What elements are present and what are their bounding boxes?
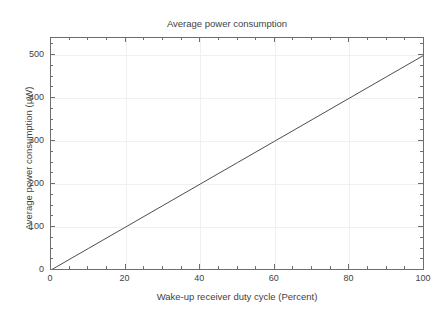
y-minor-tick: [50, 162, 53, 163]
y-minor-tick: [50, 151, 53, 152]
y-major-tick-right: [418, 226, 423, 227]
y-major-tick-right: [418, 54, 423, 55]
y-tick-label: 0: [0, 264, 44, 274]
x-tick-label: 40: [194, 273, 204, 283]
y-minor-tick: [50, 76, 53, 77]
y-minor-tick: [50, 237, 53, 238]
y-minor-tick-right: [420, 76, 423, 77]
x-minor-tick-top: [162, 37, 163, 40]
y-major-tick: [50, 54, 55, 55]
y-major-tick: [50, 269, 55, 270]
y-major-tick-right: [418, 97, 423, 98]
y-minor-tick: [50, 172, 53, 173]
x-tick-label: 0: [47, 273, 52, 283]
x-major-tick-top: [423, 37, 424, 42]
x-minor-tick: [106, 266, 107, 269]
y-minor-tick: [50, 129, 53, 130]
x-minor-tick: [311, 266, 312, 269]
y-minor-tick-right: [420, 194, 423, 195]
y-minor-tick-right: [420, 129, 423, 130]
y-major-tick: [50, 140, 55, 141]
x-minor-tick-top: [106, 37, 107, 40]
x-minor-tick: [367, 266, 368, 269]
x-minor-tick-top: [311, 37, 312, 40]
x-minor-tick-top: [87, 37, 88, 40]
y-minor-tick-right: [420, 237, 423, 238]
y-axis-label: Average power consumption (µW): [23, 42, 34, 275]
x-tick-label: 60: [269, 273, 279, 283]
x-axis-label: Wake-up receiver duty cycle (Percent): [50, 291, 424, 302]
x-minor-tick-top: [255, 37, 256, 40]
y-major-tick-right: [418, 269, 423, 270]
x-major-tick: [125, 264, 126, 269]
x-major-tick: [423, 264, 424, 269]
data-series-line: [51, 38, 424, 270]
y-tick-label: 200: [0, 178, 44, 188]
y-minor-tick: [50, 86, 53, 87]
y-minor-tick: [50, 108, 53, 109]
y-tick-label: 500: [0, 49, 44, 59]
x-minor-tick: [218, 266, 219, 269]
y-major-tick: [50, 97, 55, 98]
y-minor-tick: [50, 65, 53, 66]
x-minor-tick-top: [404, 37, 405, 40]
y-minor-tick: [50, 248, 53, 249]
y-minor-tick-right: [420, 151, 423, 152]
y-minor-tick: [50, 258, 53, 259]
y-minor-tick-right: [420, 172, 423, 173]
plot-area: [50, 37, 424, 270]
y-minor-tick-right: [420, 65, 423, 66]
x-minor-tick: [69, 266, 70, 269]
y-tick-label: 400: [0, 92, 44, 102]
chart-title-line1: Average power consumption: [167, 18, 287, 29]
x-minor-tick: [87, 266, 88, 269]
chart-figure: Average power consumption (example) 0204…: [0, 0, 444, 315]
x-major-tick-top: [348, 37, 349, 42]
x-tick-label: 80: [343, 273, 353, 283]
y-minor-tick: [50, 43, 53, 44]
series-polyline: [51, 55, 424, 270]
x-minor-tick: [386, 266, 387, 269]
x-minor-tick-top: [181, 37, 182, 40]
x-minor-tick: [181, 266, 182, 269]
y-minor-tick-right: [420, 108, 423, 109]
y-minor-tick-right: [420, 248, 423, 249]
y-major-tick-right: [418, 183, 423, 184]
x-minor-tick-top: [143, 37, 144, 40]
y-minor-tick-right: [420, 205, 423, 206]
x-minor-tick-top: [237, 37, 238, 40]
y-minor-tick: [50, 205, 53, 206]
x-minor-tick-top: [218, 37, 219, 40]
x-minor-tick: [292, 266, 293, 269]
x-minor-tick: [404, 266, 405, 269]
y-minor-tick: [50, 119, 53, 120]
x-minor-tick: [143, 266, 144, 269]
x-minor-tick-top: [69, 37, 70, 40]
y-major-tick: [50, 183, 55, 184]
y-minor-tick-right: [420, 258, 423, 259]
y-minor-tick-right: [420, 86, 423, 87]
x-minor-tick-top: [292, 37, 293, 40]
y-minor-tick-right: [420, 162, 423, 163]
x-major-tick: [348, 264, 349, 269]
x-minor-tick-top: [367, 37, 368, 40]
y-minor-tick-right: [420, 119, 423, 120]
y-minor-tick: [50, 194, 53, 195]
x-minor-tick: [330, 266, 331, 269]
x-minor-tick: [162, 266, 163, 269]
x-major-tick-top: [274, 37, 275, 42]
y-major-tick-right: [418, 140, 423, 141]
y-tick-label: 300: [0, 135, 44, 145]
x-minor-tick: [255, 266, 256, 269]
x-minor-tick-top: [330, 37, 331, 40]
x-major-tick-top: [50, 37, 51, 42]
x-tick-label: 20: [120, 273, 130, 283]
x-minor-tick: [237, 266, 238, 269]
y-major-tick: [50, 226, 55, 227]
y-minor-tick-right: [420, 215, 423, 216]
y-minor-tick-right: [420, 43, 423, 44]
x-minor-tick-top: [386, 37, 387, 40]
x-major-tick-top: [125, 37, 126, 42]
x-major-tick: [274, 264, 275, 269]
y-minor-tick: [50, 215, 53, 216]
